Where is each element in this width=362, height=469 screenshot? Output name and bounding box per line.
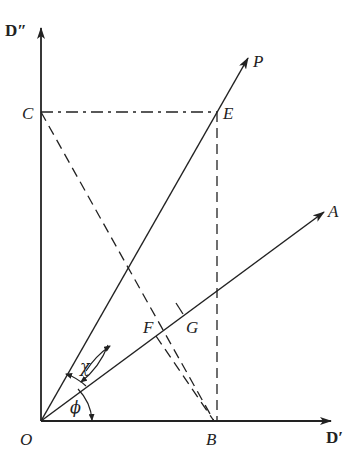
label-e: E bbox=[222, 104, 234, 123]
label-chi: χ bbox=[79, 357, 91, 376]
vector-a bbox=[41, 212, 324, 421]
label-p: P bbox=[252, 52, 263, 71]
label-d-prime: D′ bbox=[326, 428, 343, 447]
label-g: G bbox=[186, 318, 198, 337]
label-c: C bbox=[22, 104, 34, 123]
diagram-canvas: D″ D′ C E P A F G O B χ ϕ bbox=[0, 0, 362, 469]
label-o: O bbox=[20, 430, 32, 449]
label-a: A bbox=[327, 202, 339, 221]
line-g-perp bbox=[176, 303, 183, 314]
label-d-double-prime: D″ bbox=[5, 21, 27, 40]
label-f: F bbox=[142, 318, 154, 337]
label-b: B bbox=[206, 430, 217, 449]
label-phi: ϕ bbox=[70, 398, 81, 417]
line-f-b bbox=[156, 336, 214, 421]
